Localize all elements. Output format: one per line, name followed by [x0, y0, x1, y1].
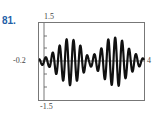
plot-area: [0, 0, 158, 117]
function-curve: [39, 38, 144, 86]
